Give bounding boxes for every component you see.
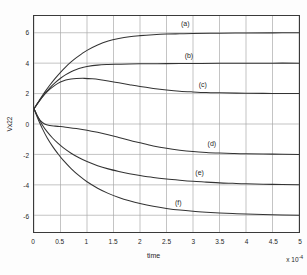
curve-d [34,109,299,155]
x-axis-exponent: x 10-4 [286,256,303,263]
curve-label-c: (c) [199,81,207,88]
chart-figure: 6420-2-4-6 00.511.522.533.544.55 (a)(b)(… [0,0,307,275]
x-tick-label: 4 [245,238,249,245]
curve-label-d: (d) [208,139,217,146]
curve-label-a: (a) [181,20,190,27]
curve-f [34,109,299,215]
x-tick-label: 1.5 [109,238,118,245]
x-tick-label: 2 [138,238,142,245]
plot-area [33,15,300,233]
curve-b [34,63,299,109]
x-tick-label: 0 [31,238,35,245]
x-tick-label: 3 [191,238,195,245]
x-axis-title: time [0,252,307,259]
curve-e [34,109,299,185]
x-tick-label: 0.5 [55,238,64,245]
y-axis-title: Vx22 [6,117,13,132]
y-tick-label: 4 [6,59,29,66]
y-tick-label: -4 [6,182,29,189]
y-tick-label: 6 [6,28,29,35]
curve-series-group [34,16,299,232]
x-axis-exponent-power: -4 [299,254,303,260]
x-tick-label: 3.5 [215,238,224,245]
y-tick-label: -6 [6,213,29,220]
x-tick-label: 1 [85,238,89,245]
x-tick-label: 5 [298,238,302,245]
y-tick-label: 2 [6,90,29,97]
x-tick-label: 4.5 [269,238,278,245]
x-axis-exponent-base: x 10 [286,256,298,263]
curve-c [34,78,299,108]
y-axis-title-wrap: Vx22 [4,103,14,145]
curve-label-e: (e) [195,168,204,175]
curve-label-f: (f) [175,199,182,206]
curve-label-b: (b) [185,51,194,58]
y-tick-label: -2 [6,151,29,158]
x-tick-label: 2.5 [162,238,171,245]
